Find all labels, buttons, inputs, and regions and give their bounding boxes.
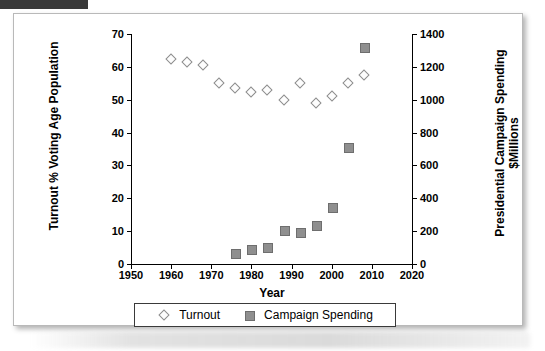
data-point-square [312,221,322,231]
y-right-axis-title: Presidential Campaign Spending $Millions [493,28,521,258]
y-right-tick-label: 400 [420,193,460,203]
y-right-tick-label: 1000 [420,95,460,105]
x-tick-label: 2000 [310,269,354,281]
y-right-tick [413,198,417,199]
data-point-diamond [198,60,209,71]
x-tick-label: 1990 [270,269,314,281]
y-right-tick [413,133,417,134]
y-left-tick-label: 20 [82,193,124,203]
data-point-diamond [326,91,337,102]
data-point-diamond [342,78,353,89]
data-point-square [344,143,354,153]
data-point-square [328,203,338,213]
x-tick-label: 1960 [149,269,193,281]
y-right-tick [413,231,417,232]
y-right-tick-label: 0 [420,259,460,269]
data-point-square [231,249,241,259]
data-point-square [263,243,273,253]
y-left-tick [127,133,131,134]
data-point-square [247,245,257,255]
y-right-tick [413,100,417,101]
plot-area: 010203040506070 020040060080010001200140… [14,14,522,325]
x-tick-label: 2020 [390,269,434,281]
x-tick-label: 2010 [350,269,394,281]
page-body-text-blur [30,332,530,348]
y-left-tick-label: 60 [82,62,124,72]
data-point-diamond [310,97,321,108]
y-right-tick [413,34,417,35]
legend-label-campaign-spending: Campaign Spending [264,308,373,322]
y-left-tick [127,100,131,101]
diamond-marker-icon [157,309,171,321]
y-left-tick-label: 0 [82,259,124,269]
top-page-band [0,0,88,9]
data-point-diamond [358,69,369,80]
y-right-tick-label: 800 [420,128,460,138]
x-axis-line [131,264,413,265]
data-point-square [296,228,306,238]
y-left-tick-label: 40 [82,128,124,138]
y-right-tick-label: 600 [420,160,460,170]
y-left-tick-label: 10 [82,226,124,236]
y-right-tick [413,67,417,68]
y-left-tick [127,34,131,35]
x-tick-label: 1970 [189,269,233,281]
y-left-tick [127,67,131,68]
x-tick-label: 1980 [229,269,273,281]
data-point-diamond [278,94,289,105]
data-point-square [280,226,290,236]
y-left-tick [127,198,131,199]
data-point-diamond [214,78,225,89]
data-point-diamond [182,56,193,67]
y-right-tick [413,264,417,265]
y-right-tick-label: 200 [420,226,460,236]
data-point-diamond [246,86,257,97]
y-left-tick-label: 50 [82,95,124,105]
chart-figure-frame: 010203040506070 020040060080010001200140… [13,13,523,326]
square-marker-icon [242,309,256,321]
data-point-diamond [262,84,273,95]
data-point-square [360,43,370,53]
data-point-diamond [294,78,305,89]
y-left-axis-line [131,34,132,265]
chart-legend: Turnout Campaign Spending [134,303,396,327]
legend-label-turnout: Turnout [179,308,220,322]
data-point-diamond [165,53,176,64]
y-left-tick-label: 70 [82,29,124,39]
y-left-axis-title: Turnout % Voting Age Population [47,36,61,236]
x-axis-title: Year [131,286,413,300]
data-point-diamond [230,83,241,94]
y-right-tick [413,165,417,166]
y-left-tick-label: 30 [82,160,124,170]
y-left-tick [127,165,131,166]
y-right-tick-label: 1200 [420,62,460,72]
legend-item-turnout[interactable]: Turnout [157,308,220,322]
y-left-tick [127,231,131,232]
x-tick-label: 1950 [109,269,153,281]
legend-item-campaign-spending[interactable]: Campaign Spending [242,308,373,322]
y-right-tick-label: 1400 [420,29,460,39]
